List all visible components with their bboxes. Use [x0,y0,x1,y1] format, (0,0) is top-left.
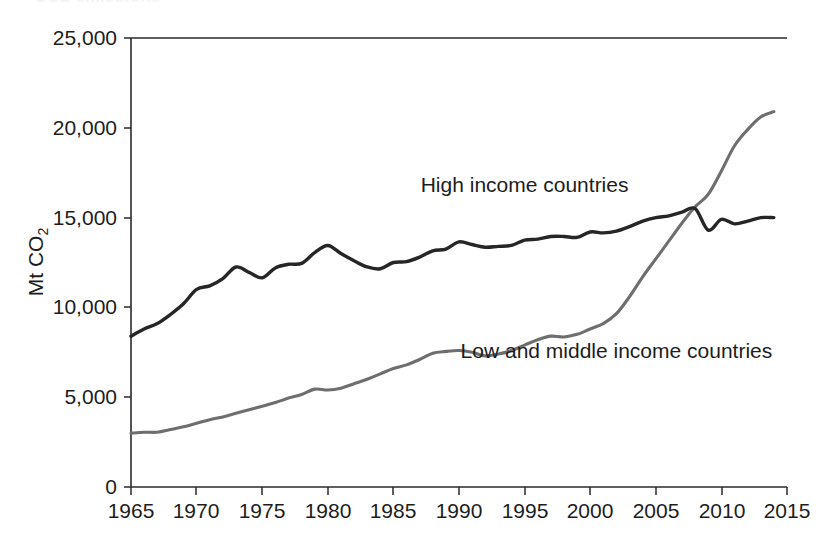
x-tick-label: 2010 [699,499,746,522]
y-axis-title-subscript: 2 [35,228,51,236]
x-tick-label: 2015 [764,499,811,522]
y-tick-label: 25,000 [53,26,117,49]
x-tick-label: 1980 [305,499,352,522]
y-tick-label: 0 [105,475,117,498]
x-tick-label: 1965 [108,499,155,522]
svg-text:Mt CO2: Mt CO2 [24,228,51,297]
x-tick-label: 1970 [173,499,220,522]
annotation-low-and-middle-income: Low and middle income countries [461,339,773,362]
y-tick-label: 20,000 [53,116,117,139]
x-tick-label: 2005 [633,499,680,522]
y-tick-label: 15,000 [53,206,117,229]
x-tick-label: 1975 [239,499,286,522]
x-tick-label: 1985 [370,499,417,522]
y-axis-title-main: Mt CO [24,236,47,297]
y-axis-title: Mt CO2 [24,228,51,297]
y-tick-label: 10,000 [53,295,117,318]
x-tick-label: 1990 [436,499,483,522]
x-axis-tick-labels: 1965 1970 1975 1980 1985 1990 1995 2000 … [108,499,811,522]
y-axis-tick-labels: 25,000 20,000 15,000 10,000 5,000 0 [53,26,117,498]
x-axis-ticks [131,487,787,495]
annotation-high-income: High income countries [421,173,629,196]
x-tick-label: 1995 [502,499,549,522]
x-tick-label: 2000 [567,499,614,522]
co2-emissions-line-chart: 25,000 20,000 15,000 10,000 5,000 0 Mt C… [0,0,838,547]
chart-figure: CO2 emissions 25,000 20,000 15,000 10,00… [0,0,838,547]
y-tick-label: 5,000 [64,385,117,408]
y-axis-ticks [124,38,131,487]
